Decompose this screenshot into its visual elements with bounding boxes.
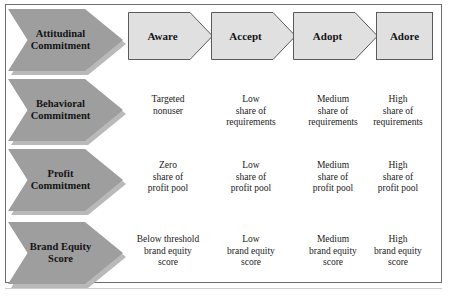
stage-shape-adopt[interactable]: Adopt xyxy=(293,12,378,60)
cell-profit-adore: High share of profit pool xyxy=(350,160,446,195)
stage-label-adore: Adore xyxy=(390,30,419,42)
row-label-profit: Profit Commitment xyxy=(31,168,90,192)
page-baseline xyxy=(5,288,442,289)
stage-shape-aware[interactable]: Aware xyxy=(128,12,213,60)
cell-behavioral-aware: Targeted nonuser xyxy=(120,94,216,117)
row-label-brand-equity: Brand Equity Score xyxy=(30,241,92,265)
stage-label-adopt: Adopt xyxy=(313,30,342,42)
stage-label-aware: Aware xyxy=(147,30,177,42)
cell-behavioral-adore: High share of requirements xyxy=(350,94,446,129)
stage-shape-accept[interactable]: Accept xyxy=(211,12,296,60)
cell-brand-equity-adore: High brand equity score xyxy=(350,234,446,269)
cell-brand-equity-aware: Below threshold brand equity score xyxy=(120,234,216,269)
stage-shape-adore[interactable]: Adore xyxy=(376,12,433,60)
row-label-behavioral: Behavioral Commitment xyxy=(31,98,90,122)
diagram-canvas: Attitudinal Commitment Behavioral Commit… xyxy=(0,0,449,297)
cell-profit-aware: Zero share of profit pool xyxy=(120,160,216,195)
row-label-attitudinal: Attitudinal Commitment xyxy=(31,28,90,52)
stage-label-accept: Accept xyxy=(229,30,261,42)
